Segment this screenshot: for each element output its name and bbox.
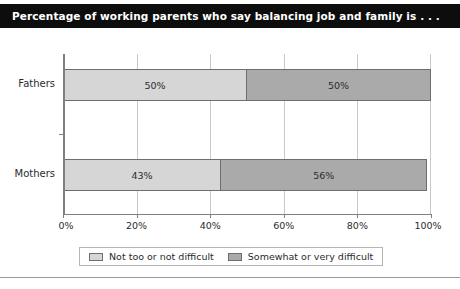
bar-value-label: 50%: [328, 80, 349, 91]
x-axis-label-20: 20%: [126, 220, 147, 231]
bar-value-label: 56%: [313, 170, 334, 181]
y-axis-label-mothers: Mothers: [15, 168, 55, 179]
x-axis-label-0: 0%: [58, 220, 73, 231]
plot-area: 50% 50% 43% 56%: [63, 54, 431, 214]
bar-value-label: 43%: [132, 170, 153, 181]
bar-segment-fathers-difficult: 50%: [247, 69, 431, 101]
legend-item-label: Somewhat or very difficult: [248, 251, 374, 262]
legend-item-difficult[interactable]: Somewhat or very difficult: [228, 251, 374, 262]
bar-segment-fathers-not-difficult: 50%: [63, 69, 247, 101]
bar-segment-mothers-difficult: 56%: [221, 159, 427, 191]
legend-swatch-icon: [89, 253, 103, 261]
legend-swatch-icon: [228, 253, 242, 261]
footer-divider: [0, 277, 460, 278]
bar-value-label: 50%: [144, 80, 165, 91]
x-axis-tick-40: [210, 214, 211, 218]
x-axis-label-60: 60%: [273, 220, 294, 231]
x-axis-label-100: 100%: [414, 220, 441, 231]
x-axis-tick-60: [284, 214, 285, 218]
bar-segment-mothers-not-difficult: 43%: [63, 159, 221, 191]
x-axis-label-40: 40%: [200, 220, 221, 231]
chart-legend: Not too or not difficult Somewhat or ver…: [79, 247, 383, 266]
title-banner: Percentage of working parents who say ba…: [0, 4, 460, 28]
chart-canvas: 50% 50% 43% 56% Fathers Mothers 0% 20%: [0, 34, 460, 256]
x-axis-label-80: 80%: [347, 220, 368, 231]
y-axis-line: [63, 54, 65, 215]
y-axis-label-fathers: Fathers: [18, 78, 55, 89]
x-axis-line: [63, 214, 432, 215]
table-row: 43% 56%: [63, 159, 427, 191]
page-title: Percentage of working parents who say ba…: [0, 10, 440, 22]
table-row: 50% 50%: [63, 69, 431, 101]
legend-item-label: Not too or not difficult: [109, 251, 214, 262]
legend-item-not-difficult[interactable]: Not too or not difficult: [89, 251, 214, 262]
x-axis-tick-20: [137, 214, 138, 218]
x-axis-tick-0: [63, 214, 64, 218]
x-axis-tick-80: [357, 214, 358, 218]
y-axis-tick: [59, 134, 63, 135]
y-axis-labels: Fathers Mothers: [0, 54, 55, 214]
x-axis-tick-100: [431, 214, 432, 218]
